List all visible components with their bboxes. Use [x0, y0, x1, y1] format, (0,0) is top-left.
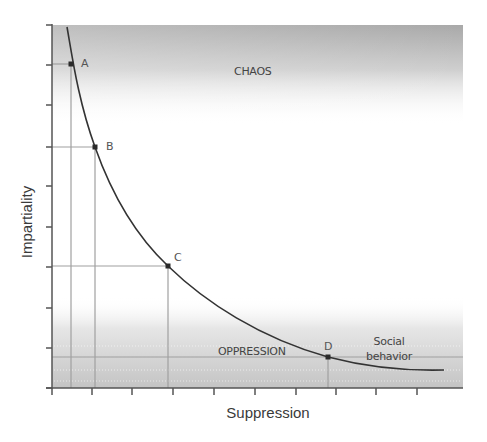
point-c-marker: [166, 264, 171, 269]
x-axis: [46, 388, 463, 395]
chart: A B C D CHAOS OPPRESSION Social behavior…: [0, 0, 487, 442]
social-behavior-label-line2: behavior: [366, 350, 413, 363]
point-d-label: D: [324, 340, 332, 353]
x-axis-title: Suppression: [226, 404, 309, 421]
point-c-label: C: [174, 251, 182, 264]
y-axis: [46, 24, 52, 389]
oppression-label: OPPRESSION: [218, 345, 286, 358]
point-b-marker: [93, 145, 98, 150]
point-b-label: B: [106, 140, 114, 153]
social-behavior-label-line1: Social: [374, 335, 405, 348]
y-axis-title: Impartiality: [18, 185, 35, 258]
point-a-marker: [69, 62, 74, 67]
point-d-marker: [326, 355, 331, 360]
point-a-label: A: [81, 57, 89, 70]
chaos-label: CHAOS: [234, 65, 272, 78]
